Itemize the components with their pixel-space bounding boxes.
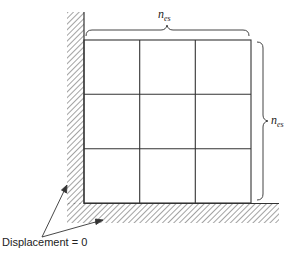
top-brace	[86, 25, 249, 36]
left-wall-hatch	[67, 12, 84, 204]
top-subscript: es	[164, 14, 171, 23]
top-dimension-label: nes	[158, 7, 171, 23]
mesh-diagram	[0, 0, 296, 255]
right-brace	[257, 42, 268, 200]
right-dimension-label: nes	[271, 113, 284, 129]
boundary-label: Displacement = 0	[2, 236, 87, 248]
right-subscript: es	[277, 120, 284, 129]
element-grid	[84, 40, 251, 203]
